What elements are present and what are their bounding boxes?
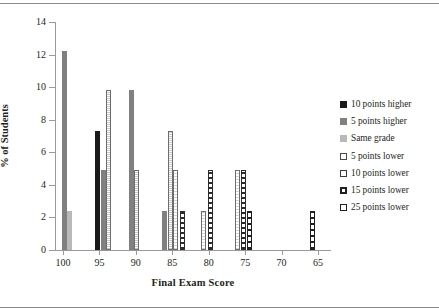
bar (95, 131, 100, 250)
y-axis-tick-label: 10 (28, 82, 46, 92)
x-axis-tick (209, 250, 210, 255)
legend-swatch-icon (340, 101, 347, 108)
bar (62, 51, 67, 250)
x-axis-tick (172, 250, 173, 255)
x-axis-tick (99, 250, 100, 255)
legend-item[interactable]: 15 points lower (340, 182, 439, 199)
legend-swatch-icon (340, 153, 347, 160)
x-axis-tick (136, 250, 137, 255)
x-axis-tick-label: 70 (277, 258, 287, 268)
bar (241, 170, 246, 250)
y-axis-tick-label: 8 (28, 115, 46, 125)
legend-swatch-icon (340, 204, 347, 211)
x-axis-title: Final Exam Score (55, 277, 331, 288)
bar (173, 170, 178, 250)
y-axis-tick-label: 12 (28, 50, 46, 60)
legend-item[interactable]: 10 points higher (340, 96, 439, 113)
y-axis-tick-label: 0 (28, 245, 46, 255)
legend-item-label: Same grade (351, 134, 395, 143)
legend-item-label: 5 points lower (351, 152, 404, 161)
x-axis-tick-label: 65 (313, 258, 323, 268)
y-axis-tick-label: 2 (28, 212, 46, 222)
bar (235, 170, 240, 250)
y-axis-tick (49, 217, 55, 218)
legend-swatch-icon (340, 135, 347, 142)
legend-item[interactable]: Same grade (340, 130, 439, 147)
y-axis-tick (49, 120, 55, 121)
y-axis-tick (49, 87, 55, 88)
bar (180, 211, 185, 250)
legend-swatch-icon (340, 118, 347, 125)
chart-figure: 02468101214 10095908580757065 % of Stude… (0, 0, 439, 308)
x-axis-tick-label: 100 (56, 258, 71, 268)
bar (310, 211, 315, 250)
x-axis-tick-label: 85 (167, 258, 177, 268)
x-axis-tick (282, 250, 283, 255)
legend-item-label: 15 points lower (351, 186, 409, 195)
legend-item[interactable]: 5 points lower (340, 148, 439, 165)
y-axis-tick (49, 55, 55, 56)
x-axis-tick-label: 90 (131, 258, 141, 268)
bar (101, 170, 106, 250)
y-axis-tick (49, 185, 55, 186)
legend-item[interactable]: 25 points lower (340, 199, 439, 216)
x-axis-tick (245, 250, 246, 255)
y-axis-tick (49, 250, 55, 251)
y-axis-tick (49, 152, 55, 153)
bar (106, 90, 111, 250)
chart-legend: 10 points higher5 points higherSame grad… (340, 96, 439, 216)
x-axis-tick (63, 250, 64, 255)
legend-item[interactable]: 5 points higher (340, 113, 439, 130)
legend-item-label: 10 points higher (351, 100, 411, 109)
bar (134, 170, 139, 250)
legend-item-label: 10 points lower (351, 169, 409, 178)
x-axis-line (55, 250, 331, 251)
x-axis-tick-label: 95 (94, 258, 104, 268)
bar (162, 211, 167, 250)
y-axis-tick-label: 14 (28, 17, 46, 27)
y-axis-tick-label: 6 (28, 147, 46, 157)
x-axis-tick-label: 80 (204, 258, 214, 268)
legend-item-label: 5 points higher (351, 117, 407, 126)
bar (168, 131, 173, 250)
y-axis-tick-label: 4 (28, 180, 46, 190)
y-axis-title: % of Students (0, 76, 10, 196)
legend-item-label: 25 points lower (351, 203, 409, 212)
bar (247, 211, 252, 250)
x-axis-tick (318, 250, 319, 255)
legend-swatch-icon (340, 170, 347, 177)
legend-swatch-icon (340, 187, 347, 194)
x-axis-tick-label: 75 (240, 258, 250, 268)
legend-item[interactable]: 10 points lower (340, 165, 439, 182)
bar (67, 211, 72, 250)
plot-area (55, 22, 330, 250)
y-axis-tick (49, 22, 55, 23)
bar (129, 90, 134, 250)
bar (208, 170, 213, 250)
bar (201, 211, 206, 250)
top-divider (0, 3, 439, 4)
